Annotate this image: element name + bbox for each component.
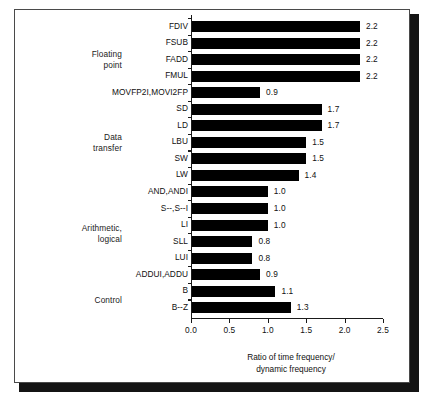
bar (191, 104, 322, 115)
bar-row: SW (0, 151, 191, 167)
x-axis-line (191, 318, 383, 319)
bar-value-label: 1.7 (328, 104, 340, 115)
bar-group-label: Floating point (32, 49, 122, 70)
bar-row: S--,S--I (0, 201, 191, 217)
bar (191, 220, 268, 231)
x-axis-tick-label: 0.0 (176, 325, 206, 335)
x-axis-tick (383, 319, 384, 323)
y-axis-tick (188, 283, 192, 284)
bar (191, 71, 360, 82)
y-axis-tick (188, 217, 192, 218)
bar-category-label: FMUL (0, 68, 191, 84)
x-axis-tick (191, 319, 192, 323)
bar (191, 120, 322, 131)
y-axis-tick (188, 134, 192, 135)
bar-row: FDIV (0, 19, 191, 35)
bar-value-label: 0.9 (266, 269, 278, 280)
bar-row: AND,ANDI (0, 184, 191, 200)
bar (191, 21, 360, 32)
bar-group-label: Data transfer (32, 132, 122, 153)
bar-row: SD (0, 101, 191, 117)
y-axis-tick (188, 167, 192, 168)
bar-row: ADDUI,ADDU (0, 267, 191, 283)
bar-group-label: Control (32, 295, 122, 306)
bar-value-label: 1.5 (312, 137, 324, 148)
y-axis-tick (188, 101, 192, 102)
bar-category-label: FDIV (0, 19, 191, 35)
bar-value-label: 2.2 (366, 54, 378, 65)
bar-category-label: FSUB (0, 35, 191, 51)
bar-value-label: 2.2 (366, 71, 378, 82)
bar (191, 253, 252, 264)
y-axis-tick (188, 150, 192, 151)
bar (191, 87, 260, 98)
y-axis-tick (188, 233, 192, 234)
bar-value-label: 1.0 (274, 186, 286, 197)
bar-category-label: S--,S--I (0, 201, 191, 217)
y-axis-tick (188, 68, 192, 69)
x-axis-title: Ratio of time frequency/ dynamic frequen… (196, 352, 386, 375)
y-axis-tick (188, 184, 192, 185)
y-axis-tick (188, 299, 192, 300)
bar (191, 170, 299, 181)
bar-category-label: SW (0, 151, 191, 167)
bar-value-label: 1.1 (281, 286, 293, 297)
bar-value-label: 1.7 (328, 120, 340, 131)
bar-row: LUI (0, 250, 191, 266)
bar-value-label: 0.8 (258, 236, 270, 247)
bar-row: LW (0, 167, 191, 183)
bar-category-label: SD (0, 101, 191, 117)
bar-category-label: AND,ANDI (0, 184, 191, 200)
bar-category-label: MOVFP2I,MOVI2FP (0, 85, 191, 101)
y-axis-tick (188, 18, 192, 19)
bar-value-label: 2.2 (366, 38, 378, 49)
bar (191, 203, 268, 214)
x-axis-tick (229, 319, 230, 323)
bar-value-label: 0.9 (266, 87, 278, 98)
x-axis-tick-label: 2.0 (330, 325, 360, 335)
bar (191, 302, 291, 313)
x-axis-tick-label: 0.5 (214, 325, 244, 335)
y-axis-tick (188, 84, 192, 85)
bar-value-label: 1.0 (274, 203, 286, 214)
x-axis-tick (306, 319, 307, 323)
bar (191, 137, 306, 148)
bar-category-label: ADDUI,ADDU (0, 267, 191, 283)
figure-root: FDIV2.2FSUB2.2FADD2.2FMUL2.2MOVFP2I,MOVI… (0, 0, 437, 401)
x-axis-tick-label: 1.0 (253, 325, 283, 335)
bar-chart-plot-area: FDIV2.2FSUB2.2FADD2.2FMUL2.2MOVFP2I,MOVI… (0, 0, 437, 401)
bar-row: FSUB (0, 35, 191, 51)
bar-value-label: 1.4 (305, 170, 317, 181)
bar-value-label: 1.3 (297, 302, 309, 313)
bar (191, 38, 360, 49)
bar-category-label: LW (0, 167, 191, 183)
bar (191, 153, 306, 164)
bar-row: FMUL (0, 68, 191, 84)
x-axis-tick-label: 2.5 (368, 325, 398, 335)
bar-value-label: 2.2 (366, 21, 378, 32)
bar-category-label: LD (0, 118, 191, 134)
y-axis-tick (188, 200, 192, 201)
x-axis-tick-label: 1.5 (291, 325, 321, 335)
y-axis-tick (188, 51, 192, 52)
y-axis-tick (188, 250, 192, 251)
bar-value-label: 1.5 (312, 153, 324, 164)
y-axis-tick (188, 35, 192, 36)
bar-category-label: LUI (0, 250, 191, 266)
bar-value-label: 1.0 (274, 220, 286, 231)
x-axis-tick (268, 319, 269, 323)
bar-row: LD (0, 118, 191, 134)
bar-row: MOVFP2I,MOVI2FP (0, 85, 191, 101)
y-axis-tick (188, 117, 192, 118)
x-axis-tick (345, 319, 346, 323)
bar (191, 286, 275, 297)
bar (191, 186, 268, 197)
y-axis-tick (188, 266, 192, 267)
bar (191, 54, 360, 65)
bar (191, 236, 252, 247)
bar-group-label: Arithmetic, logical (32, 223, 122, 244)
bar-value-label: 0.8 (258, 253, 270, 264)
bar (191, 269, 260, 280)
